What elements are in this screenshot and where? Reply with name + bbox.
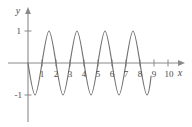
x-axis-name: x (177, 67, 183, 78)
x-axis (8, 60, 185, 66)
x-tick-label-8: 8 (138, 69, 143, 79)
y-tick-label-pos1: 1 (17, 26, 22, 36)
x-tick-label-5: 5 (96, 69, 101, 79)
x-tick-label-7: 7 (124, 69, 129, 79)
x-tick-label-4: 4 (82, 69, 87, 79)
y-tick-label-neg1: -1 (15, 90, 23, 100)
graph-figure: 1 2 3 4 5 6 7 8 9 10 1 -1 y x (0, 0, 192, 127)
x-tick-label-2: 2 (54, 69, 59, 79)
x-tick-label-9: 9 (152, 69, 157, 79)
x-tick-label-1: 1 (40, 69, 45, 79)
x-axis-arrowhead (178, 60, 185, 66)
y-axis-name: y (15, 5, 21, 16)
plot-canvas: 1 2 3 4 5 6 7 8 9 10 1 -1 y x (0, 0, 192, 127)
x-tick-labels: 1 2 3 4 5 6 7 8 9 10 (40, 69, 174, 79)
x-tick-label-3: 3 (68, 69, 73, 79)
y-axis-arrowhead (25, 7, 31, 14)
x-tick-label-6: 6 (110, 69, 115, 79)
x-tick-label-10: 10 (165, 69, 175, 79)
